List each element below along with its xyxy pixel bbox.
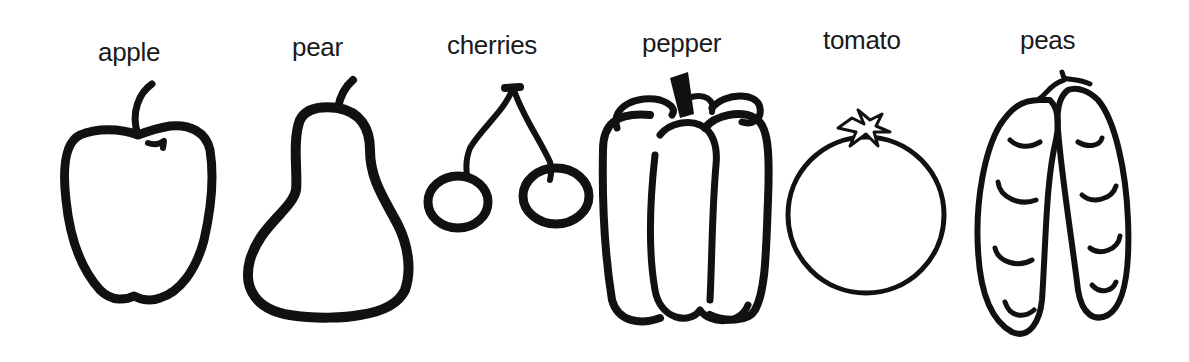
apple-icon: [65, 84, 212, 300]
pepper-icon: [603, 72, 769, 321]
pear-icon: [248, 80, 409, 318]
cherries-icon: [428, 87, 589, 228]
tomato-icon: [788, 110, 944, 293]
peas-icon: [977, 72, 1128, 334]
produce-illustration: apple pear cherries pepper tomato peas: [0, 0, 1189, 362]
